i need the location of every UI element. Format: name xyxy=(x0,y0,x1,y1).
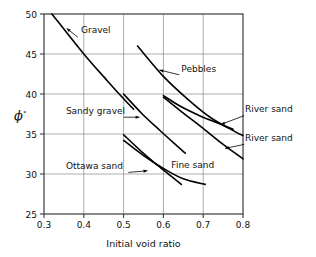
x-tick-label: 0.4 xyxy=(77,220,92,230)
y-tick-label: 40 xyxy=(26,90,38,100)
x-tick-label: 0.3 xyxy=(37,220,51,230)
annotation-label-ottawa-sand: Ottawa sand xyxy=(66,161,123,171)
annotation-label-gravel: Gravel xyxy=(81,25,111,35)
y-tick-label: 35 xyxy=(26,130,37,140)
leader-arrowhead-sandy-gravel xyxy=(136,116,140,119)
annotation-label-river-sand: River sand xyxy=(245,133,293,143)
degree-symbol: ° xyxy=(23,110,27,118)
x-tick-label: 0.7 xyxy=(196,220,210,230)
annotation-label-river-sand: River sand xyxy=(245,104,293,114)
y-axis-title: ϕ° xyxy=(14,108,26,123)
annotation-label-fine-sand: Fine sand xyxy=(171,160,214,170)
chart-container: 0.30.40.50.60.70.8253035404550Initial vo… xyxy=(0,0,316,257)
x-tick-label: 0.6 xyxy=(156,220,171,230)
leader-arrowhead-river-sand xyxy=(221,122,225,125)
annotation-label-sandy-gravel: Sandy gravel xyxy=(66,106,125,116)
annotation-label-pebbles: Pebbles xyxy=(181,64,216,74)
y-tick-label: 30 xyxy=(26,170,38,180)
y-tick-label: 45 xyxy=(26,50,37,60)
x-tick-label: 0.5 xyxy=(116,220,130,230)
x-tick-label: 0.8 xyxy=(236,220,251,230)
x-axis-title: Initial void ratio xyxy=(106,238,181,249)
phi-vs-void-ratio-chart: 0.30.40.50.60.70.8253035404550Initial vo… xyxy=(0,0,316,257)
y-tick-label: 50 xyxy=(26,10,38,20)
y-tick-label: 25 xyxy=(26,210,37,220)
